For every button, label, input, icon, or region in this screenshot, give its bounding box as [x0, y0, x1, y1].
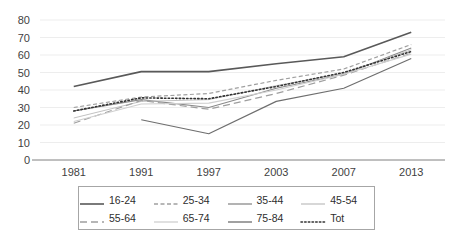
legend-swatch-Tot — [300, 213, 326, 223]
chart-container: 80706050403020100 1981199119972003200720… — [0, 0, 452, 238]
legend-item-35-44[interactable]: 35-44 — [227, 194, 301, 206]
chart-legend: 16-2425-3435-4445-5455-6465-7475-84Tot — [78, 186, 375, 230]
series-group — [74, 32, 412, 134]
legend-item-55-64[interactable]: 55-64 — [79, 212, 153, 224]
legend-label-45-54: 45-54 — [330, 194, 357, 206]
legend-swatch-75-84 — [227, 213, 253, 223]
line-chart-svg — [0, 0, 452, 180]
plot-area: 80706050403020100 1981199119972003200720… — [0, 0, 452, 180]
legend-swatch-65-74 — [153, 213, 179, 223]
legend-item-65-74[interactable]: 65-74 — [153, 212, 227, 224]
x-axis-tick-2007: 2007 — [332, 166, 356, 178]
legend-swatch-35-44 — [227, 195, 253, 205]
x-axis-labels: 198119911997200320072013 — [0, 160, 452, 180]
legend-row: 16-2425-3435-4445-54 — [79, 191, 374, 209]
legend-label-Tot: Tot — [330, 212, 344, 224]
legend-item-25-34[interactable]: 25-34 — [153, 194, 227, 206]
series-line-16-24 — [74, 32, 412, 86]
legend-swatch-16-24 — [79, 195, 105, 205]
legend-label-16-24: 16-24 — [109, 194, 136, 206]
x-axis-tick-1981: 1981 — [62, 166, 86, 178]
legend-swatch-45-54 — [300, 195, 326, 205]
legend-label-55-64: 55-64 — [109, 212, 136, 224]
x-axis-tick-2003: 2003 — [264, 166, 288, 178]
series-line-75-84 — [141, 59, 411, 134]
legend-item-75-84[interactable]: 75-84 — [227, 212, 301, 224]
legend-swatch-25-34 — [153, 195, 179, 205]
legend-row: 55-6465-7475-84Tot — [79, 209, 374, 227]
legend-item-16-24[interactable]: 16-24 — [79, 194, 153, 206]
legend-item-Tot[interactable]: Tot — [300, 212, 374, 224]
series-line-55-64 — [74, 53, 412, 123]
legend-label-25-34: 25-34 — [183, 194, 210, 206]
legend-label-65-74: 65-74 — [183, 212, 210, 224]
series-line-65-74 — [74, 54, 412, 121]
legend-swatch-55-64 — [79, 213, 105, 223]
x-axis-tick-1997: 1997 — [197, 166, 221, 178]
legend-item-45-54[interactable]: 45-54 — [300, 194, 374, 206]
x-axis-tick-2013: 2013 — [399, 166, 423, 178]
legend-label-75-84: 75-84 — [257, 212, 284, 224]
legend-label-35-44: 35-44 — [257, 194, 284, 206]
x-axis-tick-1991: 1991 — [129, 166, 153, 178]
